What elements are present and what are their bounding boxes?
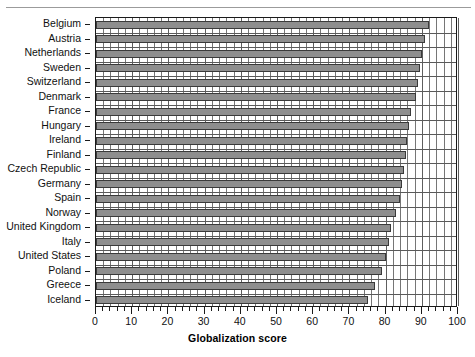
bar-row (96, 221, 458, 236)
category-tick (85, 140, 90, 141)
category-tick (85, 39, 90, 40)
category-label-netherlands: Netherlands (24, 47, 81, 58)
x-tick-30 (204, 307, 205, 314)
page-scan-line (6, 7, 471, 8)
category-tick (85, 97, 90, 98)
bar-sweden (96, 64, 420, 72)
category-tick (85, 111, 90, 112)
bar-france (96, 108, 411, 116)
x-tick-60 (312, 307, 313, 314)
x-tick-10 (131, 307, 132, 314)
x-tick-50 (276, 307, 277, 314)
bar-row (96, 265, 458, 280)
bar-switzerland (96, 79, 418, 87)
bar-norway (96, 209, 396, 217)
category-label-sweden: Sweden (43, 62, 81, 73)
x-tick-46 (262, 307, 263, 311)
bars-layer (96, 18, 456, 306)
x-tick-6 (117, 307, 118, 311)
bar-belgium (96, 21, 429, 29)
bar-row (96, 163, 458, 178)
x-tick-44 (254, 307, 255, 311)
chart-figure: BelgiumAustriaNetherlandsSwedenSwitzerla… (0, 0, 475, 357)
bar-row (96, 207, 458, 222)
x-tick-94 (435, 307, 436, 311)
bar-row (96, 236, 458, 251)
bar-poland (96, 267, 382, 275)
x-tick-76 (370, 307, 371, 311)
value-axis-ticks (95, 307, 457, 314)
x-tick-label-90: 90 (415, 315, 427, 327)
x-axis-title: Globalization score (0, 332, 475, 344)
x-tick-label-20: 20 (162, 315, 174, 327)
category-tick (85, 184, 90, 185)
category-label-france: France (48, 105, 81, 116)
x-tick-70 (348, 307, 349, 314)
x-tick-82 (392, 307, 393, 311)
category-tick (85, 285, 90, 286)
value-axis-labels: 0102030405060708090100 (0, 315, 475, 329)
x-tick-14 (146, 307, 147, 311)
category-label-iceland: Iceland (47, 294, 81, 305)
category-label-switzerland: Switzerland (27, 76, 81, 87)
x-tick-label-70: 70 (343, 315, 355, 327)
category-label-finland: Finland (47, 149, 81, 160)
category-tick (85, 155, 90, 156)
category-tick (85, 126, 90, 127)
category-label-hungary: Hungary (41, 120, 81, 131)
x-tick-label-30: 30 (198, 315, 210, 327)
x-tick-label-0: 0 (92, 315, 98, 327)
x-tick-86 (406, 307, 407, 311)
x-tick-label-100: 100 (448, 315, 466, 327)
bar-germany (96, 180, 402, 188)
x-tick-22 (175, 307, 176, 311)
x-tick-90 (421, 307, 422, 314)
x-tick-34 (218, 307, 219, 311)
x-tick-98 (450, 307, 451, 311)
x-tick-4 (109, 307, 110, 311)
x-tick-80 (385, 307, 386, 314)
x-tick-label-10: 10 (125, 315, 137, 327)
category-tick (85, 271, 90, 272)
x-tick-84 (399, 307, 400, 311)
x-tick-2 (102, 307, 103, 311)
bar-italy (96, 238, 389, 246)
bar-united-kingdom (96, 224, 391, 232)
category-tick (85, 68, 90, 69)
x-tick-label-50: 50 (270, 315, 282, 327)
x-tick-78 (377, 307, 378, 311)
x-tick-26 (189, 307, 190, 311)
bar-row (96, 91, 458, 106)
x-tick-label-40: 40 (234, 315, 246, 327)
category-tick (85, 53, 90, 54)
x-tick-label-60: 60 (306, 315, 318, 327)
x-tick-48 (269, 307, 270, 311)
bar-row (96, 134, 458, 149)
x-tick-64 (327, 307, 328, 311)
category-label-czech-republic: Czech Republic (7, 163, 81, 174)
category-tick (85, 227, 90, 228)
gridline-x-100 (458, 18, 459, 306)
x-tick-28 (196, 307, 197, 311)
bar-czech-republic (96, 166, 404, 174)
category-label-germany: Germany (38, 178, 81, 189)
category-label-united-states: United States (18, 250, 81, 261)
bar-row (96, 192, 458, 207)
bar-greece (96, 282, 375, 290)
category-label-united-kingdom: United Kingdom (6, 221, 81, 232)
x-tick-32 (211, 307, 212, 311)
bar-row (96, 294, 458, 309)
x-tick-66 (334, 307, 335, 311)
bar-finland (96, 151, 406, 159)
x-tick-56 (298, 307, 299, 311)
x-tick-58 (305, 307, 306, 311)
category-tick (85, 24, 90, 25)
bar-row (96, 250, 458, 265)
x-tick-74 (363, 307, 364, 311)
x-tick-0 (95, 307, 96, 314)
category-label-denmark: Denmark (38, 91, 81, 102)
category-label-austria: Austria (48, 33, 81, 44)
category-tick (85, 213, 90, 214)
x-tick-38 (233, 307, 234, 311)
category-tick (85, 198, 90, 199)
